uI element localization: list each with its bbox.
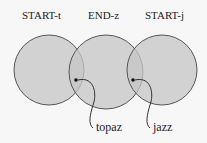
circle-start-j <box>127 35 197 105</box>
label-start-t: START-t <box>22 9 61 21</box>
label-end-z: END-z <box>88 9 119 21</box>
label-topaz: topaz <box>96 120 122 134</box>
circles <box>14 35 197 109</box>
label-jazz: jazz <box>152 120 172 134</box>
point-topaz <box>74 78 78 82</box>
point-jazz <box>131 78 135 82</box>
venn-diagram: START-t END-z START-j topaz jazz <box>0 0 207 143</box>
label-start-j: START-j <box>145 9 184 21</box>
